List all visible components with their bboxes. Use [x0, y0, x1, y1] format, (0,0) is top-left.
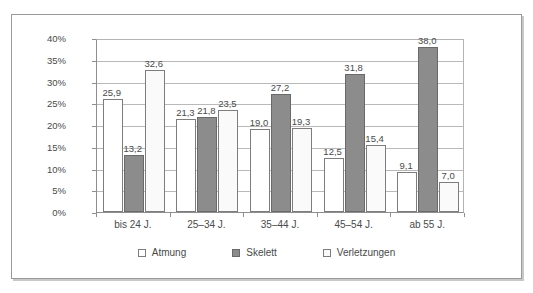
bar-value-label: 38,0: [407, 36, 447, 46]
bar-verletzungen-2: [292, 128, 312, 212]
bar-skelett-4: [418, 47, 438, 212]
bar-value-label: 13,2: [113, 144, 153, 154]
bar-verletzungen-3: [366, 145, 386, 212]
bar-atmung-2: [250, 129, 270, 212]
bar-value-label: 19,3: [281, 117, 321, 127]
bar-value-label: 25,9: [92, 88, 132, 98]
bar-value-label: 9,1: [386, 161, 426, 171]
x-axis-tick-mark: [390, 213, 391, 217]
bar-value-label: 32,6: [134, 59, 174, 69]
bar-value-label: 31,8: [334, 63, 374, 73]
y-axis-tick-label: 25%: [26, 99, 66, 109]
x-axis-tick-mark: [317, 213, 318, 217]
y-axis-tick-label: 0%: [26, 208, 66, 218]
bar-atmung-0: [103, 99, 123, 212]
y-axis-tick-label: 35%: [26, 56, 66, 66]
bar-value-label: 27,2: [260, 83, 300, 93]
legend-item-verletzungen[interactable]: Verletzungen: [323, 247, 395, 258]
bar-atmung-1: [176, 119, 196, 212]
x-axis-tick-mark: [96, 213, 97, 217]
legend-label: Atmung: [152, 247, 186, 258]
y-axis-tick-label: 30%: [26, 78, 66, 88]
bar-skelett-0: [124, 155, 144, 212]
y-axis-tick-label: 5%: [26, 186, 66, 196]
bar-verletzungen-1: [218, 110, 238, 212]
bar-atmung-3: [324, 158, 344, 212]
legend-label: Verletzungen: [337, 247, 395, 258]
bar-skelett-1: [197, 117, 217, 212]
bar-verletzungen-4: [439, 182, 459, 212]
bar-value-label: 12,5: [313, 147, 353, 157]
legend-swatch-icon: [232, 249, 240, 257]
x-axis-category-label: ab 55 J.: [382, 219, 472, 231]
bar-value-label: 7,0: [428, 171, 468, 181]
bar-skelett-2: [271, 94, 291, 212]
chart-figure: 0%5%10%15%20%25%30%35%40% bis 24 J.25–34…: [11, 14, 522, 279]
legend-swatch-icon: [323, 249, 331, 257]
x-axis-tick-mark: [170, 213, 171, 217]
legend-item-atmung[interactable]: Atmung: [138, 247, 186, 258]
bar-atmung-4: [397, 172, 417, 212]
chart-legend: AtmungSkelettVerletzungen: [12, 247, 521, 258]
bar-value-label: 15,4: [355, 134, 395, 144]
x-axis-tick-mark: [243, 213, 244, 217]
bar-value-label: 19,0: [239, 118, 279, 128]
legend-swatch-icon: [138, 249, 146, 257]
x-axis-tick-mark: [464, 213, 465, 217]
bar-value-label: 23,5: [207, 99, 247, 109]
y-axis-tick-label: 15%: [26, 143, 66, 153]
legend-item-skelett[interactable]: Skelett: [232, 247, 277, 258]
y-axis-tick-label: 40%: [26, 34, 66, 44]
legend-label: Skelett: [246, 247, 277, 258]
bar-verletzungen-0: [145, 70, 165, 212]
y-axis-tick-label: 20%: [26, 121, 66, 131]
y-axis-tick-label: 10%: [26, 165, 66, 175]
